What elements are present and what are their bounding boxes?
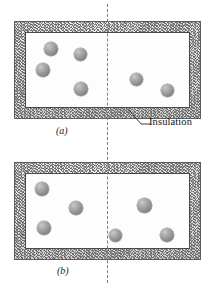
gas-molecule [36, 63, 50, 77]
gas-molecule [74, 82, 88, 96]
gas-molecule [137, 198, 152, 213]
gas-molecule [161, 84, 174, 97]
partition-divider-a [107, 4, 108, 140]
partition-divider-b [107, 142, 108, 283]
thermodynamics-figure: (a) Insulation (b) [0, 0, 214, 286]
insulation-leader-line [127, 104, 151, 126]
gas-molecule [160, 228, 174, 242]
insulation-label: Insulation [149, 116, 192, 127]
panel-caption-b: (b) [57, 265, 69, 276]
gas-molecule [44, 42, 58, 56]
panel-caption-a: (a) [56, 125, 68, 136]
gas-molecule [109, 229, 122, 242]
gas-molecule [130, 73, 143, 86]
gas-molecule [74, 48, 87, 61]
gas-molecule [69, 201, 83, 215]
gas-molecule [37, 221, 51, 235]
gas-molecule [35, 182, 49, 196]
